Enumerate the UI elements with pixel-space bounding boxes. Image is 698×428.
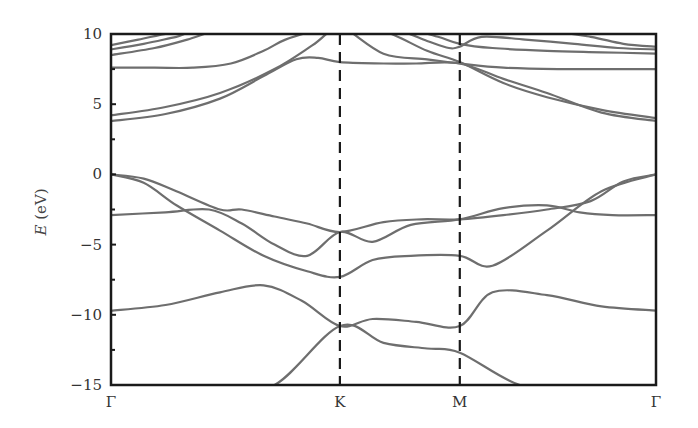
y-tick-label: −15: [70, 376, 102, 394]
y-axis-label: E (eV): [32, 188, 50, 236]
band-v5-line: [111, 205, 656, 256]
band-c4-line: [111, 27, 656, 56]
band-v4-line: [111, 174, 656, 232]
x-axis-ticks: ΓKMΓ: [106, 393, 661, 411]
band-v2-line: [111, 285, 656, 328]
x-tick-label-gamma: Γ: [651, 393, 661, 411]
y-tick-label: −5: [80, 236, 102, 254]
high-symmetry-dashed-lines: [340, 34, 460, 385]
band-structure-chart: 1050−5−10−15 ΓKMΓ E (eV): [0, 0, 698, 428]
y-tick-label: 10: [83, 25, 102, 43]
y-tick-label: −10: [70, 306, 102, 324]
y-axis-ticks: 1050−5−10−15: [70, 25, 116, 394]
energy-bands: [111, 24, 656, 396]
x-tick-label-gamma: Γ: [106, 393, 116, 411]
band-v3-line: [111, 174, 656, 277]
x-tick-label-m: M: [452, 393, 467, 411]
x-tick-label-k: K: [334, 393, 346, 411]
y-tick-label: 5: [92, 95, 102, 113]
y-tick-label: 0: [92, 165, 102, 183]
